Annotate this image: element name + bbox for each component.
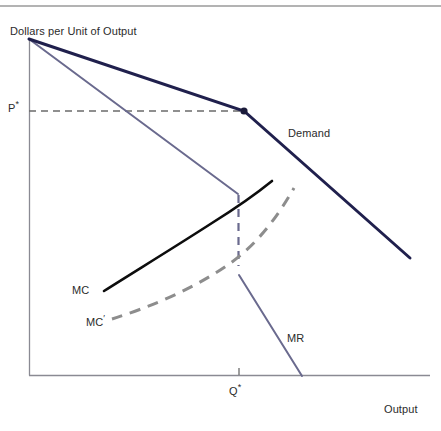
marginal-cost-prime-label: MC′ [86, 317, 105, 328]
y-axis-title: Dollars per Unit of Output [10, 26, 137, 37]
marginal-cost-prime-curve-dashed [112, 188, 294, 319]
demand-curve-label: Demand [288, 128, 330, 139]
kinked-demand-chart [0, 0, 441, 431]
figure-container: Dollars per Unit of Output Output P* Q* … [0, 0, 441, 431]
prime-glyph: ′ [103, 313, 105, 323]
quantity-star-glyph: * [238, 382, 242, 392]
marginal-cost-curve [104, 181, 272, 291]
x-axis-title: Output [384, 404, 418, 415]
marginal-revenue-label: MR [287, 333, 304, 344]
demand-curve [29, 39, 410, 258]
price-star-glyph: * [15, 99, 19, 109]
quantity-star-label: Q* [229, 386, 241, 397]
price-star-label: P* [8, 103, 19, 114]
kink-point-marker [240, 107, 247, 114]
marginal-cost-label: MC [72, 285, 89, 296]
quantity-label-text: Q [229, 385, 238, 397]
marginal-revenue-upper-segment [29, 39, 238, 194]
marginal-revenue-lower-segment [239, 275, 302, 376]
marginal-cost-prime-text: MC [86, 316, 103, 328]
